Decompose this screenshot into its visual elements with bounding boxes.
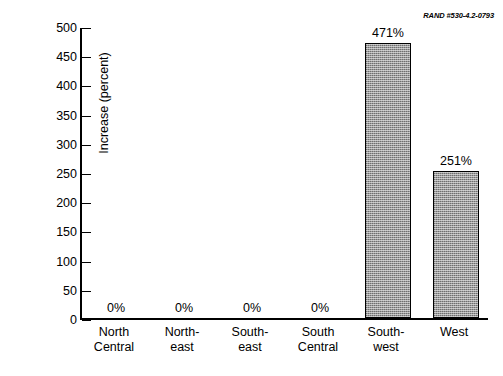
y-axis-tick-mark [82, 232, 91, 233]
x-axis-label-line: West [440, 325, 468, 340]
y-axis-tick-label: 400 [56, 79, 77, 93]
bar-value-label: 0% [243, 301, 261, 315]
x-axis-label-line: North [94, 325, 134, 340]
y-axis-tick-label: 150 [56, 225, 77, 239]
y-axis-tick-mark [82, 291, 91, 292]
y-axis-tick-mark [82, 28, 91, 29]
bar [365, 43, 411, 318]
x-axis-label-line: North- [165, 325, 200, 340]
y-axis-tick-label: 0 [70, 313, 77, 327]
x-axis-category-label: North-east [165, 325, 200, 355]
x-axis-label-line: South- [232, 325, 269, 340]
y-axis-tick-mark [82, 262, 91, 263]
y-axis-tick-label: 200 [56, 196, 77, 210]
y-axis-title: Increase (percent) [97, 23, 111, 183]
y-axis-tick-mark [82, 116, 91, 117]
x-axis-category-label: South-west [368, 325, 405, 355]
y-axis-tick-label: 300 [56, 138, 77, 152]
x-axis-category-label: SouthCentral [298, 325, 338, 355]
rand-credit-line: RAND #530-4.2-0793 [423, 11, 494, 20]
y-axis-tick-mark [82, 174, 91, 175]
x-axis-label-line: Central [94, 340, 134, 355]
chart-plot-area: Increase (percent) 050100150200250300350… [80, 28, 488, 320]
bar-value-label: 0% [311, 301, 329, 315]
bar-value-label: 251% [440, 154, 472, 168]
bar-value-label: 0% [175, 301, 193, 315]
bar [433, 171, 479, 318]
y-axis-tick-mark [82, 320, 91, 321]
x-axis-label-line: east [232, 340, 269, 355]
x-axis-label-line: east [165, 340, 200, 355]
y-axis-tick-label: 450 [56, 50, 77, 64]
bar-value-label: 471% [372, 26, 404, 40]
x-axis-label-line: Central [298, 340, 338, 355]
x-axis-label-line: South- [368, 325, 405, 340]
y-axis-tick-mark [82, 145, 91, 146]
x-axis-category-label: South-east [232, 325, 269, 355]
y-axis-tick-mark [82, 86, 91, 87]
y-axis-tick-mark [82, 57, 91, 58]
y-axis-tick-mark [82, 203, 91, 204]
y-axis-tick-label: 100 [56, 255, 77, 269]
y-axis-tick-label: 500 [56, 21, 77, 35]
x-axis-category-label: West [440, 325, 468, 340]
bar-value-label: 0% [107, 301, 125, 315]
x-axis-category-label: NorthCentral [94, 325, 134, 355]
x-axis-label-line: west [368, 340, 405, 355]
y-axis-tick-label: 250 [56, 167, 77, 181]
y-axis-tick-label: 350 [56, 109, 77, 123]
x-axis-label-line: South [298, 325, 338, 340]
y-axis-tick-label: 50 [63, 284, 77, 298]
